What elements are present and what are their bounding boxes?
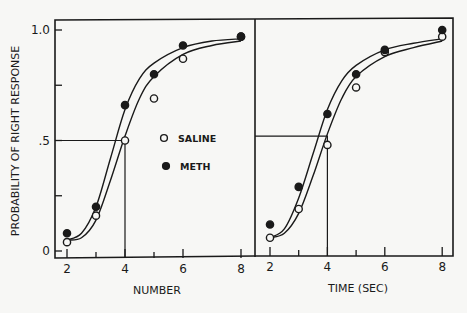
- x-axis-label-number: NUMBER: [133, 284, 181, 297]
- panel-number: 2468: [55, 33, 245, 276]
- data-point-saline: [295, 205, 302, 212]
- data-point-meth: [121, 102, 128, 109]
- data-point-meth: [353, 71, 360, 78]
- data-point-meth: [92, 203, 99, 210]
- x-tick-label: 2: [266, 260, 274, 274]
- data-point-meth: [295, 183, 302, 190]
- data-point-meth: [324, 110, 331, 117]
- panel-time: 2468: [255, 26, 446, 274]
- data-point-meth: [179, 42, 186, 49]
- data-point-saline: [266, 234, 273, 241]
- x-tick-label: 8: [438, 260, 446, 274]
- data-point-meth: [63, 230, 70, 237]
- x-tick-label: 6: [179, 262, 187, 276]
- outer-border: [55, 18, 453, 258]
- probability-chart: 0.51.0 2468 2468 SALINEMETH PROBABILITY …: [0, 0, 467, 313]
- y-tick-label: 0: [42, 244, 50, 258]
- y-axis-label: PROBABILITY OF RIGHT RESPONSE: [9, 46, 22, 237]
- data-point-saline: [353, 84, 360, 91]
- legend: SALINEMETH: [161, 133, 217, 172]
- legend-marker-meth: [163, 163, 170, 170]
- x-axis-label-time: TIME (SEC): [327, 282, 388, 295]
- legend-label-meth: METH: [180, 161, 210, 172]
- y-tick-label: .5: [39, 134, 50, 148]
- legend-marker-saline: [161, 135, 168, 142]
- y-tick-label: 1.0: [31, 23, 50, 37]
- data-point-meth: [237, 33, 244, 40]
- x-tick-label: 4: [121, 262, 129, 276]
- data-point-meth: [381, 46, 388, 53]
- data-point-saline: [121, 137, 128, 144]
- data-point-saline: [179, 55, 186, 62]
- legend-label-saline: SALINE: [178, 133, 216, 144]
- data-point-saline: [92, 212, 99, 219]
- x-tick-label: 4: [324, 260, 332, 274]
- data-point-meth: [150, 71, 157, 78]
- x-tick-label: 8: [237, 262, 245, 276]
- data-point-meth: [266, 221, 273, 228]
- x-tick-label: 6: [381, 260, 389, 274]
- data-point-saline: [150, 95, 157, 102]
- data-point-meth: [439, 26, 446, 33]
- data-point-saline: [63, 239, 70, 246]
- x-tick-label: 2: [63, 262, 71, 276]
- data-point-saline: [324, 141, 331, 148]
